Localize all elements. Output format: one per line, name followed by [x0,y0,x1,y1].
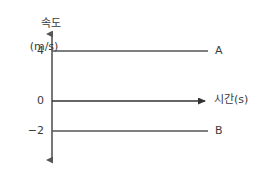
x-axis-title: 시간(s) [214,94,248,106]
y-axis-title: 속도 (m/s) [12,6,76,75]
y-axis-title-text: 속도 [41,17,61,30]
series-label-b: B [215,125,223,137]
y-tick-label-minus-2: −2 [14,125,44,137]
velocity-time-chart: 속도 (m/s) 시간(s) 4 0 −2 A B [0,0,258,172]
y-tick-label-4: 4 [14,45,44,57]
y-tick-label-0: 0 [14,95,44,107]
series-label-a: A [215,45,223,57]
